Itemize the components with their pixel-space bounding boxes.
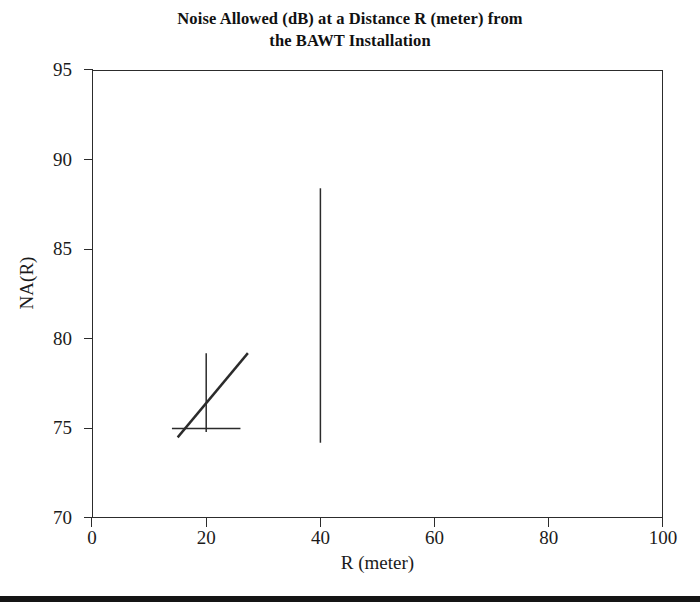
x-axis-tick-label: 40 (280, 528, 360, 547)
footer-rule (0, 596, 700, 602)
y-axis-tick-label: 80 (12, 329, 72, 348)
x-axis-tick-label: 60 (395, 528, 475, 547)
y-axis-tick (84, 69, 93, 70)
y-axis-tick-label: 70 (12, 508, 72, 527)
chart-title: Noise Allowed (dB) at a Distance R (mete… (70, 8, 630, 53)
y-axis-tick (84, 428, 93, 429)
plot-area (92, 70, 663, 518)
x-axis-tick-label: 100 (623, 528, 700, 547)
y-axis-tick-label: 90 (12, 150, 72, 169)
x-axis-tick-label: 0 (52, 528, 132, 547)
x-axis-tick (206, 518, 207, 527)
x-axis-tick-label: 20 (166, 528, 246, 547)
y-axis-tick (84, 338, 93, 339)
y-axis-tick (84, 159, 93, 160)
x-axis-tick (434, 518, 435, 527)
y-axis-tick-label: 95 (12, 60, 72, 79)
y-axis-tick-label: 85 (12, 239, 72, 258)
x-axis-tick (320, 518, 321, 527)
x-axis-title: R (meter) (92, 552, 663, 574)
x-axis-tick (662, 518, 663, 527)
figure-container: Noise Allowed (dB) at a Distance R (mete… (0, 0, 700, 616)
x-axis-tick-label: 80 (509, 528, 589, 547)
chart-title-line-1: Noise Allowed (dB) at a Distance R (mete… (70, 8, 630, 30)
y-axis-tick-label: 75 (12, 418, 72, 437)
chart-title-line-2: the BAWT Installation (70, 30, 630, 52)
x-axis-tick (548, 518, 549, 527)
x-axis-tick (91, 518, 92, 527)
y-axis-tick (84, 249, 93, 250)
